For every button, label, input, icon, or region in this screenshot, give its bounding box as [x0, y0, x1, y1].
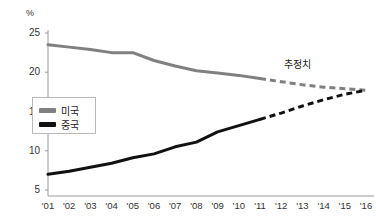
chart-legend: 미국 중국	[32, 97, 96, 134]
legend-item-china: 중국	[39, 117, 79, 132]
legend-swatch-china	[39, 122, 56, 127]
x-tick-label: '15	[334, 201, 356, 211]
x-tick-label: '09	[207, 201, 229, 211]
x-tick-label: '08	[185, 201, 207, 211]
x-tick-label: '05	[122, 201, 144, 211]
series-line-solid-usa	[48, 45, 260, 79]
y-tick-label: 5	[18, 185, 40, 195]
y-tick-label: 25	[18, 28, 40, 38]
legend-swatch-usa	[39, 108, 56, 113]
legend-label-usa: 미국	[61, 103, 79, 118]
x-tick-label: '13	[291, 201, 313, 211]
x-tick-label: '12	[270, 201, 292, 211]
legend-label-china: 중국	[61, 117, 79, 132]
x-tick-label: '04	[101, 201, 123, 211]
x-tick-label: '11	[249, 201, 271, 211]
x-tick-label: '16	[355, 201, 376, 211]
series-line-forecast-china	[260, 90, 366, 119]
x-tick-label: '10	[228, 201, 250, 211]
y-tick-label: 20	[18, 67, 40, 77]
x-tick-label: '06	[143, 201, 165, 211]
x-tick-label: '14	[313, 201, 335, 211]
x-tick-label: '02	[58, 201, 80, 211]
estimate-annotation-label: 추정치	[284, 56, 311, 71]
x-tick-label: '01	[37, 201, 59, 211]
x-tick-label: '07	[164, 201, 186, 211]
x-tick-label: '03	[79, 201, 101, 211]
chart-container: % 252015105 '01'02'03'04'05'06'07'08'09'…	[0, 0, 376, 223]
y-tick-label: 10	[18, 146, 40, 156]
series-line-forecast-usa	[260, 79, 366, 91]
legend-item-usa: 미국	[39, 103, 79, 118]
